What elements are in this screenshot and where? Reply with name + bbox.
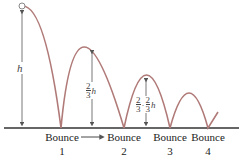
height-2-3h-label: 23 h — [86, 82, 96, 99]
bounce-3-label: Bounce — [152, 132, 188, 143]
variable: h — [92, 86, 97, 96]
bounce-2-number: 2 — [106, 145, 142, 157]
variable: h — [151, 100, 156, 110]
height-h-label: h — [17, 62, 23, 74]
ball-trajectory — [22, 6, 218, 128]
denominator: 3 — [86, 91, 91, 99]
bounce-3-number: 3 — [152, 145, 188, 157]
bounce-1-number: 1 — [44, 145, 80, 157]
separator: · — [142, 100, 145, 110]
denominator: 3 — [136, 105, 141, 113]
bounce-4-label: Bounce — [190, 132, 226, 143]
bounce-4-number: 4 — [190, 145, 226, 157]
denominator: 3 — [146, 105, 151, 113]
bouncing-ball-diagram: h 23 h 23 · 23 h Bounce 1 Bounce 2 Bounc… — [0, 0, 239, 161]
height-4-9h-label: 23 · 23 h — [136, 96, 156, 113]
bounce-2-label: Bounce — [106, 132, 142, 143]
ball-icon — [19, 3, 25, 9]
bounce-1-label: Bounce — [44, 132, 80, 143]
